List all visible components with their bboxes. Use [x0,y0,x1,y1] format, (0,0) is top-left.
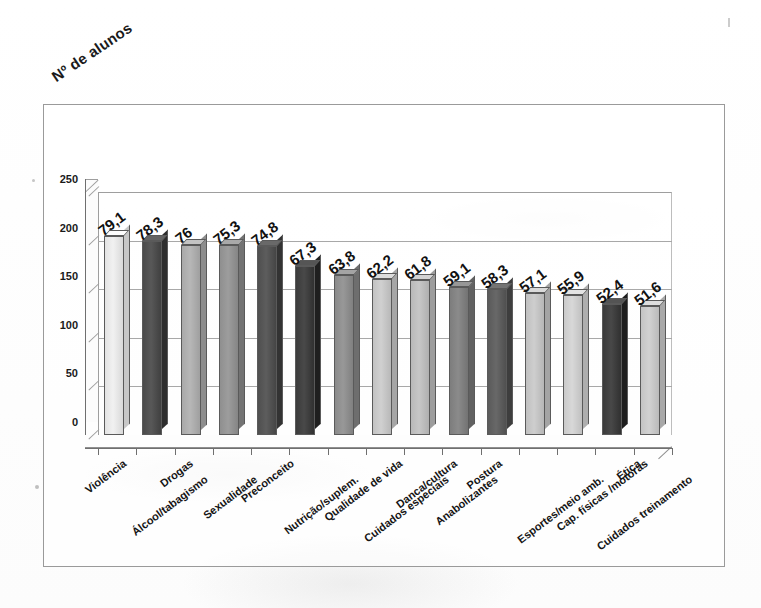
bar-side-face [354,263,360,429]
bar-front-face [257,246,277,435]
x-axis-tick [136,448,137,455]
scan-speck [35,485,39,489]
y-axis-tick-label: 50 [66,367,78,379]
bar[interactable] [104,236,124,435]
bar[interactable] [410,280,430,435]
y-axis-line [85,179,86,435]
bar-side-face [162,229,168,429]
bar-side-face [124,224,130,429]
x-axis-tick [481,448,482,455]
bar-front-face [181,245,201,436]
scan-speck [728,18,730,27]
x-axis-tick [404,448,405,455]
bar[interactable] [181,245,201,436]
x-axis-tick [251,448,252,455]
x-axis-tick [328,448,329,455]
bar[interactable] [563,295,583,435]
x-axis-tick [289,448,290,455]
bar-side-face [392,268,398,429]
bar-side-face [315,254,321,429]
x-axis-tick [175,448,176,455]
bar-front-face [410,280,430,435]
bar-front-face [487,289,507,435]
x-axis-tick [672,448,673,455]
bar-side-face [622,292,628,429]
bar[interactable] [334,275,354,435]
bar-side-face [545,282,551,429]
bar-front-face [563,295,583,435]
bar-front-face [640,306,660,435]
bar[interactable] [295,266,315,435]
x-axis-tick [366,448,367,455]
bar-front-face [295,266,315,435]
plot-floor [85,435,672,448]
y-axis-tick-label: 150 [60,270,78,282]
y-axis-tick-label: 200 [60,222,78,234]
bar-side-face [201,233,207,429]
bar[interactable] [142,241,162,435]
plot-area: 050100150200250 79,178,37675,374,867,363… [98,192,672,435]
bar-front-face [142,241,162,435]
x-axis-tick [98,448,99,455]
bar-side-face [430,269,436,429]
bar-side-face [660,294,666,429]
x-axis-tick [519,448,520,455]
bar-front-face [602,304,622,435]
bar-side-face [469,276,475,429]
bar-side-face [507,278,513,429]
bar[interactable] [640,306,660,435]
bar-front-face [104,236,124,435]
bar-front-face [334,275,354,435]
x-axis-tick [442,448,443,455]
bar-side-face [277,235,283,429]
chart-title: Nº de alunos [48,19,135,85]
x-axis-tick [634,448,635,455]
x-axis-line [85,448,672,449]
y-axis-tick-label: 100 [60,319,78,331]
bar[interactable] [449,287,469,435]
bar-front-face [219,245,239,435]
x-axis-tick [557,448,558,455]
scan-speck [32,179,35,182]
bar-front-face [372,279,392,435]
bar[interactable] [525,293,545,435]
y-axis-tick-label: 0 [72,416,78,428]
bar[interactable] [219,245,239,435]
x-axis-tick [213,448,214,455]
bar[interactable] [372,279,392,435]
x-axis-tick [595,448,596,455]
bar[interactable] [487,289,507,435]
bar-front-face [525,293,545,435]
bar[interactable] [602,304,622,435]
bar-front-face [449,287,469,435]
y-axis-tick-label: 250 [60,173,78,185]
bar[interactable] [257,246,277,435]
bar-side-face [239,234,245,429]
bar-side-face [583,284,589,429]
